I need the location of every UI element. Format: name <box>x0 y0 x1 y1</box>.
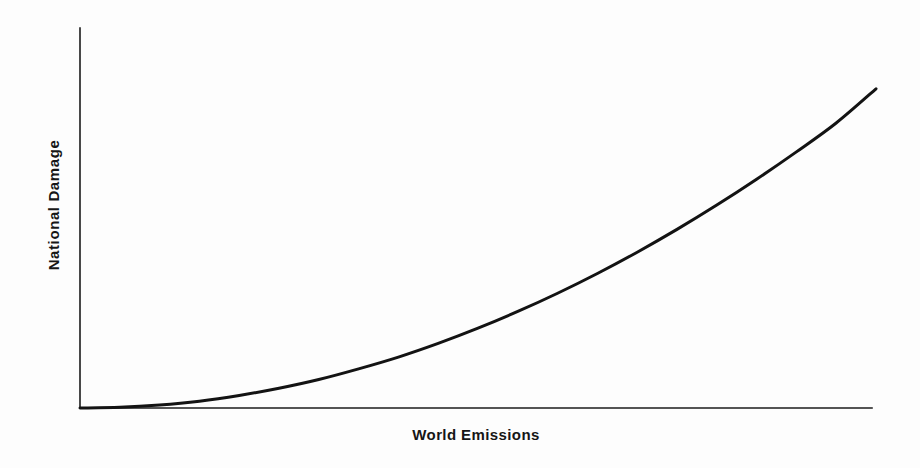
y-axis-label: National Damage <box>46 95 61 315</box>
chart-plot-area <box>0 0 920 468</box>
damage-function-curve <box>80 89 876 408</box>
x-axis-label: World Emissions <box>356 427 596 442</box>
chart-figure: National Damage World Emissions <box>0 0 920 468</box>
